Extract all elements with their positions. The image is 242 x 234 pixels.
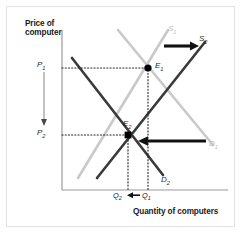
demand-initial-subscript: 1 [215,144,218,150]
equilibrium-initial-subscript: 1 [160,66,163,72]
point-equilibrium-initial [144,64,151,71]
supply-initial-subscript: 1 [173,29,176,35]
axis-lines [62,30,228,190]
y-axis-title-line2: computer [25,29,62,38]
point-equilibrium-new [125,132,132,139]
quantity-tick-new: Q2 [113,192,122,202]
supply-demand-figure: Price of computer Quantity of computers … [0,0,242,234]
curve-demand-new [72,58,163,175]
price-tick-new: P2 [37,129,45,139]
equilibrium-new-subscript: 2 [128,124,131,130]
price-new-subscript: 2 [42,133,45,139]
curve-label-supply-new: S2 [199,35,207,45]
price-tick-initial: P1 [37,61,45,71]
quantity-initial-subscript: 1 [148,195,151,201]
curve-label-supply-initial: S1 [168,25,176,35]
quantity-fall-arrow [127,192,140,198]
demand-new-subscript: 2 [167,180,170,186]
curve-label-demand-new: D2 [161,176,170,186]
quantity-tick-initial: Q1 [142,192,151,202]
price-initial-subscript: 1 [42,65,45,71]
point-label-equilibrium-new: E2 [123,120,131,130]
supply-shift-arrow [164,42,199,51]
curve-label-demand-initial: D1 [209,140,218,150]
supply-new-subscript: 2 [204,39,207,45]
y-axis-title: Price of computer [25,20,62,38]
quantity-new-subscript: 2 [119,195,122,201]
price-fall-arrow [41,72,47,126]
x-axis-title: Quantity of computers [133,208,218,217]
point-label-equilibrium-initial: E1 [155,62,163,72]
